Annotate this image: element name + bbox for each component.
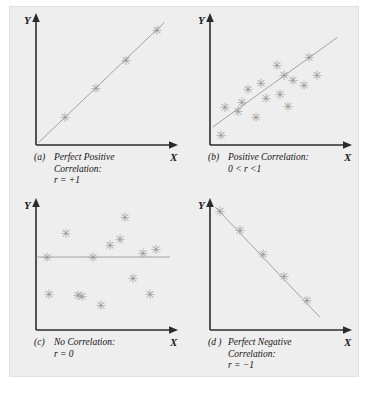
- data-point: ✳: [120, 211, 131, 224]
- data-point: ✳: [304, 51, 315, 64]
- data-point: ✳: [121, 54, 132, 67]
- data-point: ✳: [96, 299, 107, 312]
- data-point: ✳: [312, 69, 323, 82]
- data-point: ✳: [115, 233, 126, 246]
- data-point: ✳: [220, 101, 231, 114]
- panel-d-trendline: [210, 202, 344, 330]
- panel-b-tag: (b): [208, 152, 228, 164]
- panel-a-line2: Correlation:: [54, 164, 184, 176]
- data-point: ✳: [152, 24, 163, 37]
- x-axis-label: X: [344, 336, 351, 348]
- panel-a-caption: (a)Perfect Positive Correlation: r = +1: [34, 152, 184, 187]
- data-point: ✳: [261, 92, 272, 105]
- data-point: ✳: [243, 83, 254, 96]
- correlation-figure: Y ✳ ✳ ✳ ✳ (a)Perfect Positive Correlatio…: [9, 6, 359, 377]
- panel-a-tag: (a): [34, 152, 54, 164]
- data-point: ✳: [215, 205, 226, 218]
- panel-no-correlation: Y ✳ ✳ ✳ ✳ ✳ ✳ ✳ ✳ ✳ ✳ ✳ ✳ ✳ ✳ (c)No Corr: [10, 192, 184, 377]
- panel-b-line2: 0 < r <1: [228, 164, 358, 176]
- data-point: ✳: [283, 100, 294, 113]
- panel-b-caption: (b)Positive Correlation: 0 < r <1: [208, 152, 358, 175]
- panel-c-tag: (c): [34, 337, 54, 349]
- data-point: ✳: [258, 248, 269, 261]
- data-point: ✳: [299, 79, 310, 92]
- data-point: ✳: [42, 251, 53, 264]
- data-point: ✳: [279, 270, 290, 283]
- x-axis-label: X: [344, 151, 351, 163]
- panel-a-trendline: [36, 17, 170, 145]
- panel-d-line3: r = −1: [228, 360, 358, 372]
- data-point: ✳: [151, 243, 162, 256]
- x-axis-label: X: [170, 151, 177, 163]
- x-axis-label: X: [170, 336, 177, 348]
- data-point: ✳: [44, 288, 55, 301]
- data-point: ✳: [288, 74, 299, 87]
- panel-d-line1: Perfect Negative: [228, 337, 292, 347]
- panel-d-tag: (d ): [208, 337, 228, 349]
- data-point: ✳: [145, 288, 156, 301]
- panel-perfect-positive: Y ✳ ✳ ✳ ✳ (a)Perfect Positive Correlatio…: [10, 7, 184, 192]
- data-point: ✳: [77, 290, 88, 303]
- panel-a-line3: r = +1: [54, 175, 184, 187]
- panel-perfect-negative: Y ✳ ✳ ✳ ✳ ✳ (d )Perfect Negative Correla…: [184, 192, 358, 377]
- panel-b-line1: Positive Correlation:: [228, 152, 309, 162]
- data-point: ✳: [88, 251, 99, 264]
- data-point: ✳: [138, 247, 149, 260]
- data-point: ✳: [216, 129, 227, 142]
- panel-positive-correlation: Y ✳ ✳ ✳ ✳ ✳ ✳ ✳ ✳ ✳ ✳ ✳ ✳ ✳ ✳ ✳ ✳: [184, 7, 358, 192]
- data-point: ✳: [128, 272, 139, 285]
- data-point: ✳: [235, 224, 246, 237]
- panel-c-line1: No Correlation:: [54, 337, 115, 347]
- data-point: ✳: [251, 111, 262, 124]
- data-point: ✳: [256, 77, 267, 90]
- panel-c-line2: r = 0: [54, 349, 184, 361]
- data-point: ✳: [302, 294, 313, 307]
- panel-d-line2: Correlation:: [228, 349, 358, 361]
- panel-a-line1: Perfect Positive: [54, 152, 114, 162]
- data-point: ✳: [237, 96, 248, 109]
- panel-c-caption: (c)No Correlation: r = 0: [34, 337, 184, 360]
- data-point: ✳: [61, 227, 72, 240]
- panel-b-trendline: [210, 17, 344, 145]
- data-point: ✳: [91, 82, 102, 95]
- panel-d-caption: (d )Perfect Negative Correlation: r = −1: [208, 337, 358, 372]
- data-point: ✳: [60, 111, 71, 124]
